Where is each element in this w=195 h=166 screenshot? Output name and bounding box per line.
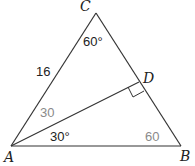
side-CB <box>96 13 181 146</box>
segment-AD <box>11 82 139 146</box>
vertex-label-B: B <box>179 148 190 164</box>
angle-label-C: 60° <box>83 34 103 49</box>
right-angle-marker <box>128 87 144 97</box>
vertex-label-D: D <box>142 70 154 86</box>
angle-label-DAB: 30° <box>50 129 70 144</box>
side-label-AC: 16 <box>36 64 50 79</box>
vertex-label-C: C <box>80 0 91 14</box>
triangle-diagram: C 60° 16 D 30 30° 60 A B <box>0 0 195 166</box>
side-AC <box>11 13 96 146</box>
angle-label-B: 60 <box>145 129 159 144</box>
angle-label-CAD: 30 <box>40 105 54 120</box>
vertex-label-A: A <box>2 149 14 165</box>
